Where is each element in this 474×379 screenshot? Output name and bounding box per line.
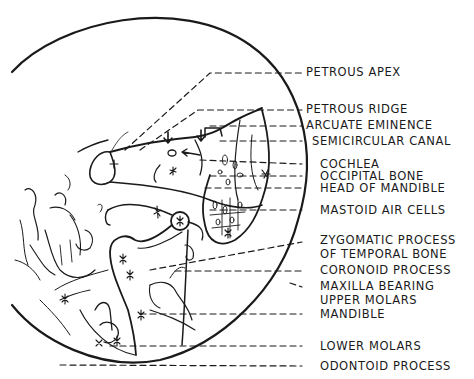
diagram-stage: PETROUS APEX PETROUS RIDGE ARCUATE EMINE… xyxy=(0,0,474,379)
label-odontoid-process: ODONTOID PROCESS xyxy=(320,360,451,372)
field-circle xyxy=(12,18,307,363)
label-arcuate-eminence: ARCUATE EMINENCE xyxy=(306,119,433,131)
label-petrous-apex: PETROUS APEX xyxy=(306,66,401,78)
label-head-of-mandible: HEAD OF MANDIBLE xyxy=(320,182,445,194)
label-mandible: MANDIBLE xyxy=(320,308,385,320)
mandible-ramus xyxy=(110,225,172,355)
label-mastoid-air-cells: MASTOID AIR CELLS xyxy=(320,204,446,216)
label-maxilla-bearing-line2: UPPER MOLARS xyxy=(320,294,417,306)
label-coronoid-process: CORONOID PROCESS xyxy=(320,264,451,276)
label-semicircular-canal: SEMICIRCULAR CANAL xyxy=(312,135,451,147)
label-lower-molars: LOWER MOLARS xyxy=(320,340,421,352)
mastoid-outline xyxy=(203,110,269,244)
label-zygomatic-process: ZYGOMATIC PROCESS xyxy=(320,234,456,246)
petrous-ridge-outline xyxy=(110,108,262,152)
label-petrous-ridge: PETROUS RIDGE xyxy=(306,103,408,115)
label-zygomatic-process-line2: OF TEMPORAL BONE xyxy=(320,248,447,260)
label-maxilla-bearing: MAXILLA BEARING xyxy=(320,280,435,292)
